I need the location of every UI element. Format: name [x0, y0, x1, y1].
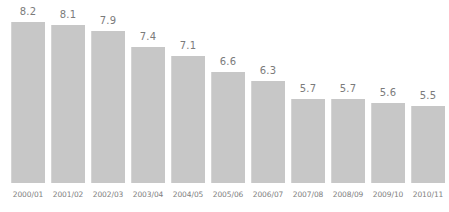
bar-group: 8.22000/01	[11, 0, 45, 212]
bar-group: 5.62009/10	[371, 0, 405, 212]
bar-group: 7.12004/05	[171, 0, 205, 212]
bar-group: 5.52010/11	[411, 0, 445, 212]
bar-value-label: 7.1	[164, 40, 212, 51]
bar-group: 8.12001/02	[51, 0, 85, 212]
bar	[91, 31, 125, 183]
bar	[291, 99, 325, 183]
bar	[171, 56, 205, 183]
bar	[211, 72, 245, 183]
bar-group: 6.62005/06	[211, 0, 245, 212]
bar	[411, 106, 445, 183]
bar-group: 5.72007/08	[291, 0, 325, 212]
bar-group: 7.42003/04	[131, 0, 165, 212]
bar-value-label: 6.3	[244, 65, 292, 76]
bar	[51, 25, 85, 183]
bar-value-label: 7.9	[84, 15, 132, 26]
bar	[131, 47, 165, 183]
bar-value-label: 5.5	[404, 90, 449, 101]
bar	[371, 103, 405, 184]
bar	[251, 81, 285, 183]
bar	[331, 99, 365, 183]
bar	[11, 22, 45, 183]
bar-group: 6.32006/07	[251, 0, 285, 212]
bar-group: 5.72008/09	[331, 0, 365, 212]
x-axis-tick-label: 2010/11	[405, 190, 449, 199]
bar-group: 7.92002/03	[91, 0, 125, 212]
